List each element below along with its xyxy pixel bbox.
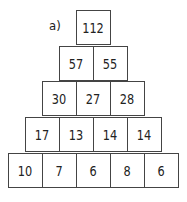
cell-value: 6 xyxy=(90,163,97,179)
pyramid-row: 302728 xyxy=(43,81,145,116)
cell-value: 6 xyxy=(158,163,165,179)
cell-value: 8 xyxy=(124,163,131,179)
cell-value: 17 xyxy=(35,127,49,143)
cell-value: 55 xyxy=(103,56,117,72)
pyramid-cell: 10 xyxy=(8,153,43,188)
pyramid-cell: 112 xyxy=(76,10,111,45)
pyramid-row: 107686 xyxy=(9,153,179,188)
pyramid-cell: 7 xyxy=(42,153,77,188)
pyramid-row: 17131414 xyxy=(26,117,162,152)
cell-value: 10 xyxy=(18,163,32,179)
pyramid-cell: 28 xyxy=(110,81,145,116)
cell-value: 112 xyxy=(83,20,105,36)
pyramid-cell: 6 xyxy=(144,153,179,188)
pyramid-cell: 8 xyxy=(110,153,145,188)
cell-value: 27 xyxy=(86,91,100,107)
pyramid-cell: 14 xyxy=(93,117,128,152)
cell-value: 7 xyxy=(56,163,63,179)
cell-value: 13 xyxy=(69,127,83,143)
pyramid-cell: 17 xyxy=(25,117,60,152)
pyramid-cell: 6 xyxy=(76,153,111,188)
cell-value: 57 xyxy=(69,56,83,72)
pyramid-cell: 27 xyxy=(76,81,111,116)
pyramid-row: 5755 xyxy=(60,46,128,81)
cell-value: 14 xyxy=(137,127,151,143)
pyramid-cell: 14 xyxy=(127,117,162,152)
pyramid-cell: 55 xyxy=(93,46,128,81)
pyramid-cell: 13 xyxy=(59,117,94,152)
pyramid-cell: 57 xyxy=(59,46,94,81)
pyramid-row: 112 xyxy=(77,10,111,45)
cell-value: 30 xyxy=(52,91,66,107)
pyramid-cell: 30 xyxy=(42,81,77,116)
cell-value: 28 xyxy=(120,91,134,107)
cell-value: 14 xyxy=(103,127,117,143)
problem-label: a) xyxy=(49,18,61,33)
